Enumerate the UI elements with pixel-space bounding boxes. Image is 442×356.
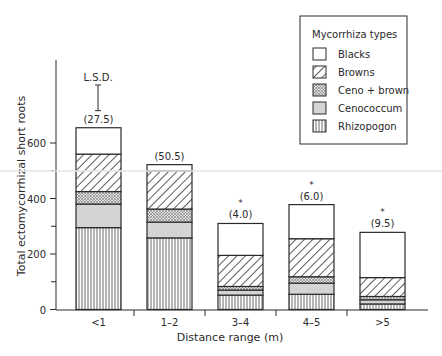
legend-item-rhizopogon: Rhizopogon	[313, 120, 397, 132]
bar-segment-ceno-brown	[76, 192, 121, 204]
y-tick-label: 400	[27, 194, 46, 205]
lsd-label: L.S.D.	[83, 72, 112, 83]
bar-stack: (27.5)	[76, 114, 121, 310]
bar-segment-blacks	[76, 128, 121, 154]
bar-segment-rhizopogon	[218, 295, 263, 309]
y-tick-label: 600	[27, 138, 46, 149]
bar-segment-cenococcum	[147, 222, 192, 238]
bar-segment-browns	[147, 171, 192, 209]
bar-segment-cenococcum	[76, 204, 121, 228]
legend: Mycorrhiza types BlacksBrownsCeno + brow…	[300, 16, 409, 144]
x-tick-label: 1–2	[161, 317, 179, 328]
bar-segment-cenococcum	[360, 300, 405, 304]
x-tick-label: 3–4	[232, 317, 250, 328]
bar-segment-blacks	[360, 232, 405, 277]
bar-segment-rhizopogon	[76, 228, 121, 310]
bar-annotation: (9.5)	[371, 218, 395, 229]
x-tick-label: >5	[375, 317, 390, 328]
legend-label: Blacks	[338, 49, 370, 60]
bar-segment-rhizopogon	[147, 238, 192, 310]
y-axis: 0200400600 Total ectomycorrhizal short r…	[15, 60, 56, 316]
legend-item-cenococcum: Cenococcum	[313, 102, 402, 114]
bar-stack: (6.0)*	[289, 180, 334, 310]
y-axis-label: Total ectomycorrhizal short roots	[15, 96, 28, 278]
bar-segment-ceno-brown	[147, 209, 192, 222]
legend-title: Mycorrhiza types	[312, 29, 397, 40]
x-axis-label: Distance range (m)	[177, 331, 283, 344]
significance-asterisk: *	[380, 207, 385, 217]
legend-label: Rhizopogon	[338, 121, 397, 132]
legend-swatch	[313, 102, 326, 114]
bar-segment-browns	[218, 255, 263, 286]
stacked-bar-chart: 0200400600 Total ectomycorrhizal short r…	[0, 0, 442, 356]
bar-annotation: (4.0)	[229, 209, 253, 220]
legend-label: Cenococcum	[338, 103, 402, 114]
legend-item-blacks: Blacks	[313, 48, 370, 60]
bar-segment-browns	[360, 278, 405, 297]
bar-stack: (9.5)*	[360, 207, 405, 309]
bar-stack: (50.5)	[147, 151, 192, 310]
bar-segment-blacks	[218, 223, 263, 255]
legend-swatch	[313, 84, 326, 96]
y-tick-label: 200	[27, 249, 46, 260]
bar-annotation: (50.5)	[154, 151, 184, 162]
lsd-indicator: L.S.D.	[83, 72, 112, 111]
bar-segment-rhizopogon	[360, 304, 405, 310]
legend-swatch	[313, 48, 326, 60]
legend-label: Ceno + brown	[338, 85, 409, 96]
legend-item-browns: Browns	[313, 66, 375, 78]
x-tick-label: <1	[91, 317, 106, 328]
y-tick-label: 0	[40, 305, 46, 316]
x-tick-label: 4–5	[303, 317, 321, 328]
bar-segment-browns	[76, 154, 121, 191]
scan-artifact-line	[0, 170, 442, 172]
bar-segment-blacks	[289, 205, 334, 239]
significance-asterisk: *	[238, 198, 243, 208]
bar-annotation: (27.5)	[83, 114, 113, 125]
legend-swatch	[313, 66, 326, 78]
bar-segment-ceno-brown	[289, 277, 334, 283]
bar-annotation: (6.0)	[300, 191, 324, 202]
bar-segment-cenococcum	[218, 290, 263, 295]
bar-segment-cenococcum	[289, 283, 334, 294]
bar-segment-rhizopogon	[289, 294, 334, 309]
x-axis: <11–23–44–5>5 Distance range (m)	[56, 310, 428, 344]
significance-asterisk: *	[309, 180, 314, 190]
legend-swatch	[313, 120, 326, 132]
bar-segment-browns	[289, 239, 334, 277]
legend-label: Browns	[338, 67, 375, 78]
bar-stack: (4.0)*	[218, 198, 263, 309]
